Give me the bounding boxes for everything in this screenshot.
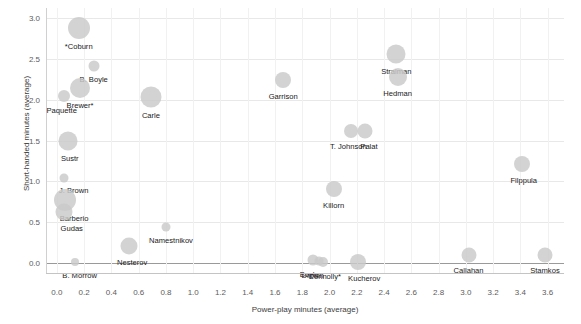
data-point[interactable] [344,124,358,138]
x-tick-label: 2.0 [324,288,335,297]
data-point[interactable] [275,72,291,88]
x-axis-line [46,273,564,274]
x-tick-label: 2.2 [351,288,362,297]
plot-area: *CoburnB. BoyleBrewer*PaquetteCarleGarri… [46,8,564,273]
data-point[interactable] [350,254,366,270]
data-point-label: Palat [360,142,377,151]
gridline-vertical [548,8,549,273]
x-tick-label: 3.6 [542,288,553,297]
gridline-vertical [275,8,276,273]
data-point[interactable] [59,174,68,183]
gridline-vertical [139,8,140,273]
data-point-label: Nesterov [117,258,147,267]
gridline-vertical [439,8,440,273]
data-point[interactable] [389,68,407,86]
data-point-label: Sustr [61,154,79,163]
x-axis-ticks: 0.00.20.40.60.81.01.21.41.61.82.02.22.42… [46,288,564,300]
x-tick-label: 1.6 [269,288,280,297]
x-tick-label: 3.0 [460,288,471,297]
data-point[interactable] [357,123,372,138]
gridline-horizontal [46,141,564,142]
x-tick-label: 0.8 [160,288,171,297]
data-point[interactable] [88,61,99,72]
x-tick-label: 1.2 [215,288,226,297]
gridline-vertical [330,8,331,273]
y-axis-label: Short-handed minutes (average) [22,1,31,266]
gridline-vertical [357,8,358,273]
data-point[interactable] [55,204,72,221]
x-tick-label: 1.4 [242,288,253,297]
data-point[interactable] [537,248,552,263]
data-point-label: Kucherov [348,274,380,283]
gridline-vertical [520,8,521,273]
x-axis-label: Power-play minutes (average) [46,305,564,314]
gridline-vertical [220,8,221,273]
data-point[interactable] [68,17,90,39]
data-point-label: Gudas [61,224,83,233]
data-point[interactable] [58,132,77,151]
x-tick-label: 0.2 [79,288,90,297]
data-point-label: Hedman [383,89,412,98]
gridline-vertical [466,8,467,273]
scatter-chart: 0.00.51.01.52.02.53.0 Short-handed minut… [0,0,581,324]
data-point-label: Carle [142,111,160,120]
gridline-vertical [111,8,112,273]
data-point[interactable] [121,238,138,255]
data-point[interactable] [58,90,70,102]
data-point-label: *Coburn [65,42,93,51]
gridline-horizontal [46,59,564,60]
x-tick-label: 2.4 [379,288,390,297]
gridline-horizontal [46,181,564,182]
x-tick-label: 3.2 [488,288,499,297]
gridline-vertical [384,8,385,273]
gridline-vertical [411,8,412,273]
gridline-vertical [302,8,303,273]
data-point[interactable] [326,181,342,197]
gridline-vertical [193,8,194,273]
x-tick-label: 2.8 [433,288,444,297]
y-axis-label-wrapper: Short-handed minutes (average) [0,0,14,324]
y-axis-line [46,8,47,273]
gridline-vertical [493,8,494,273]
data-point[interactable] [140,87,161,108]
gridline-vertical [248,8,249,273]
data-point[interactable] [387,44,406,63]
data-point[interactable] [514,156,530,172]
x-tick-label: 0.4 [106,288,117,297]
gridline-horizontal [46,222,564,223]
data-point-label: Namestnikov [149,236,193,245]
data-point-label: Paquette [47,106,77,115]
data-point[interactable] [161,223,170,232]
x-tick-label: 3.4 [515,288,526,297]
data-point-label: Garrison [269,92,298,101]
data-point[interactable] [314,256,323,265]
x-tick-label: 1.0 [188,288,199,297]
x-tick-label: 0.6 [133,288,144,297]
gridline-horizontal [46,100,564,101]
x-tick-label: 1.8 [297,288,308,297]
data-point[interactable] [71,258,79,266]
data-point[interactable] [461,248,476,263]
data-point[interactable] [70,78,90,98]
x-tick-label: 2.6 [406,288,417,297]
data-point-label: Filppula [510,176,537,185]
data-point-label: Killorn [323,201,344,210]
gridline-horizontal [46,18,564,19]
gridline-vertical [166,8,167,273]
x-tick-label: 0.0 [51,288,62,297]
